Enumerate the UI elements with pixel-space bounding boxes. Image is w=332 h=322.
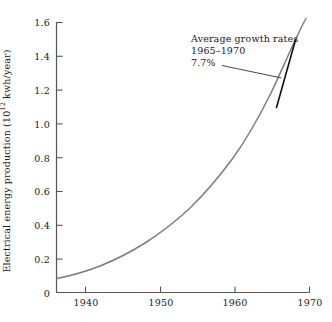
annotation-line-3: 7.7% <box>191 57 298 69</box>
y-axis-title-tail: kwh/year) <box>1 49 12 102</box>
y-tick-label-0.6: 0.6 <box>28 186 50 197</box>
y-tick-label-1.6: 1.6 <box>28 17 50 28</box>
chart-figure: 1.6 1.4 1.2 1.0 0.8 0.6 0.4 0.2 0 1940 1… <box>0 0 332 322</box>
x-tick-label-1960: 1960 <box>223 297 248 308</box>
y-axis-ticks <box>57 23 63 260</box>
y-tick-label-0.2: 0.2 <box>28 254 50 265</box>
y-tick-label-1.4: 1.4 <box>28 51 50 62</box>
x-tick-label-1940: 1940 <box>74 297 99 308</box>
x-tick-label-1950: 1950 <box>149 297 174 308</box>
y-tick-label-0: 0 <box>28 288 50 299</box>
y-tick-label-1.2: 1.2 <box>28 85 50 96</box>
y-tick-label-1.0: 1.0 <box>28 119 50 130</box>
y-tick-label-0.4: 0.4 <box>28 220 50 231</box>
y-axis-title-main: Electrical energy production (10 <box>1 111 12 273</box>
x-tick-label-1970: 1970 <box>298 297 323 308</box>
y-axis-title: Electrical energy production (1012 kwh/y… <box>1 49 12 272</box>
growth-rate-annotation: Average growth rates 1965–1970 7.7% <box>191 33 298 68</box>
annotation-line-2: 1965–1970 <box>191 45 298 57</box>
x-axis-ticks <box>86 287 310 293</box>
y-axis-title-exponent: 12 <box>0 102 7 111</box>
y-tick-label-0.8: 0.8 <box>28 153 50 164</box>
annotation-line-1: Average growth rates <box>191 33 298 45</box>
